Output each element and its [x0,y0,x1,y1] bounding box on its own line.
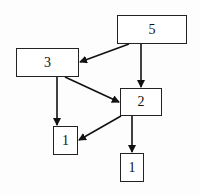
node-2: 2 [120,88,162,116]
node-label: 1 [62,133,69,149]
node-label: 1 [129,160,136,176]
node-1-left: 1 [53,126,78,155]
edge-3-to-2 [65,77,119,102]
tree-diagram: 5 3 2 1 1 [0,0,200,195]
node-3: 3 [16,48,79,77]
edge-2-to-1a [79,116,121,140]
node-1-right: 1 [120,153,144,182]
node-5: 5 [117,15,187,44]
node-label: 2 [138,94,145,110]
edge-5-to-3 [80,44,129,62]
node-label: 3 [44,55,51,71]
node-label: 5 [149,22,156,38]
